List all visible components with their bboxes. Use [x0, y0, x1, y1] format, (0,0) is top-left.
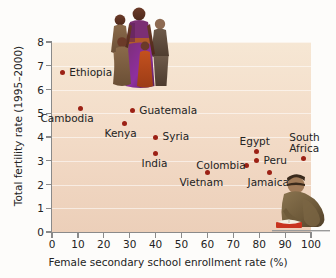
x-axis-tick-label: 100 [296, 239, 326, 250]
data-point[interactable] [205, 170, 210, 175]
data-point-label: Guatemala [139, 105, 197, 116]
y-axis-tick [46, 231, 51, 232]
gridline [52, 208, 311, 209]
data-point-label: Syria [163, 131, 190, 142]
y-axis-tick [46, 208, 51, 209]
data-point-label: Jamaica [248, 177, 289, 188]
y-axis-tick-label: 0 [22, 227, 44, 237]
data-point-label: Egypt [240, 136, 270, 147]
y-axis-tick-label: 4 [22, 132, 44, 142]
y-axis-tick [46, 89, 51, 90]
data-point-label: Colombia [196, 160, 245, 171]
data-point-label: Kenya [105, 128, 137, 139]
data-point-label: Ethiopia [69, 67, 112, 78]
y-axis-tick [46, 65, 51, 66]
scatter-chart-figure: 0123456780102030405060708090100 Ethiopia… [0, 0, 336, 278]
gridline [52, 90, 311, 91]
y-axis-tick [46, 160, 51, 161]
y-axis-title: Total fertility rate (1995–2000) [12, 31, 24, 221]
gridline [52, 42, 311, 43]
data-point[interactable] [153, 135, 158, 140]
y-axis-tick [46, 184, 51, 185]
y-axis-tick [46, 136, 51, 137]
data-point[interactable] [254, 149, 259, 154]
data-point[interactable] [78, 106, 83, 111]
data-point[interactable] [301, 156, 306, 161]
y-axis-tick-label: 8 [22, 37, 44, 47]
y-axis-tick [46, 41, 51, 42]
y-axis-tick-label: 3 [22, 156, 44, 166]
data-point-label: India [142, 158, 168, 169]
x-axis-title: Female secondary school enrollment rate … [0, 256, 336, 268]
y-axis-line [51, 41, 52, 233]
data-point-label: South Africa [289, 132, 320, 154]
y-axis-tick-label: 6 [22, 85, 44, 95]
data-point-label: Vietnam [179, 177, 223, 188]
y-axis-tick-label: 2 [22, 180, 44, 190]
y-axis-tick-label: 7 [22, 61, 44, 71]
data-point-label: Cambodia [40, 113, 93, 124]
y-axis-tick-label: 1 [22, 203, 44, 213]
data-point-label: Peru [264, 155, 287, 166]
